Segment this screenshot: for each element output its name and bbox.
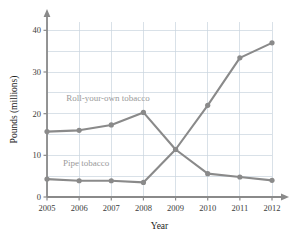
x-axis-ticks: 20052006200720082009201020112012 [39,197,281,213]
x-tick-label: 2011 [232,203,249,213]
data-point-marker [44,129,49,134]
y-tick-label: 40 [33,25,42,35]
data-point-marker [109,122,114,127]
chart-canvas: 010203040 200520062007200820092010201120… [0,0,290,241]
x-tick-label: 2009 [167,203,184,213]
y-tick-label: 20 [33,109,42,119]
x-tick-label: 2007 [103,203,120,213]
data-point-marker [77,128,82,133]
x-axis-arrow-icon [281,194,289,201]
x-tick-label: 2010 [199,203,216,213]
data-point-marker [205,103,210,108]
series-label: Pipe tobacco [63,158,110,168]
y-axis-title: Pounds (millions) [9,76,20,144]
gridlines [47,22,272,197]
data-point-marker [173,147,178,152]
series-label: Roll-your-own tobacco [66,93,150,103]
data-point-marker [141,180,146,185]
y-tick-label: 30 [33,67,42,77]
series-line [47,112,272,180]
axes [44,9,289,200]
x-tick-label: 2006 [71,203,88,213]
x-tick-label: 2005 [39,203,56,213]
y-tick-label: 10 [33,150,42,160]
line-chart: 010203040 200520062007200820092010201120… [0,0,290,241]
data-point-marker [77,178,82,183]
y-tick-label: 0 [37,192,41,202]
y-axis-arrow-icon [44,9,51,17]
data-point-marker [44,176,49,181]
x-axis-title: Year [151,221,169,231]
data-point-marker [109,178,114,183]
data-point-marker [269,40,274,45]
data-point-marker [205,171,210,176]
y-axis-ticks: 010203040 [33,25,48,202]
data-point-marker [269,178,274,183]
x-tick-label: 2008 [135,203,152,213]
x-tick-label: 2012 [264,203,281,213]
data-point-marker [237,174,242,179]
data-point-marker [237,55,242,60]
data-point-marker [141,110,146,115]
